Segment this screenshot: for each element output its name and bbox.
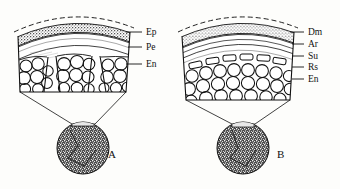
label-dm: Dm <box>308 27 323 37</box>
panel-a: Ep Pe En A <box>14 17 157 174</box>
label-rs: Rs <box>308 62 318 72</box>
label-en-a: En <box>146 59 157 69</box>
label-en-b: En <box>308 74 319 84</box>
label-su: Su <box>308 51 318 61</box>
panel-caption-b: B <box>277 148 284 160</box>
inset-circle-b <box>217 122 269 174</box>
inset-leaders-b <box>186 100 290 124</box>
inset-circle-a <box>57 122 109 174</box>
panel-b: Dm Ar Su Rs En B <box>178 17 323 174</box>
inset-leaders-a <box>20 92 126 124</box>
label-pe: Pe <box>146 42 156 52</box>
panel-caption-a: A <box>108 148 116 160</box>
diagram-svg: Ep Pe En A <box>0 0 340 189</box>
label-ep: Ep <box>146 27 157 37</box>
label-ar: Ar <box>308 39 319 49</box>
figure-container: Ep Pe En A <box>0 0 340 189</box>
